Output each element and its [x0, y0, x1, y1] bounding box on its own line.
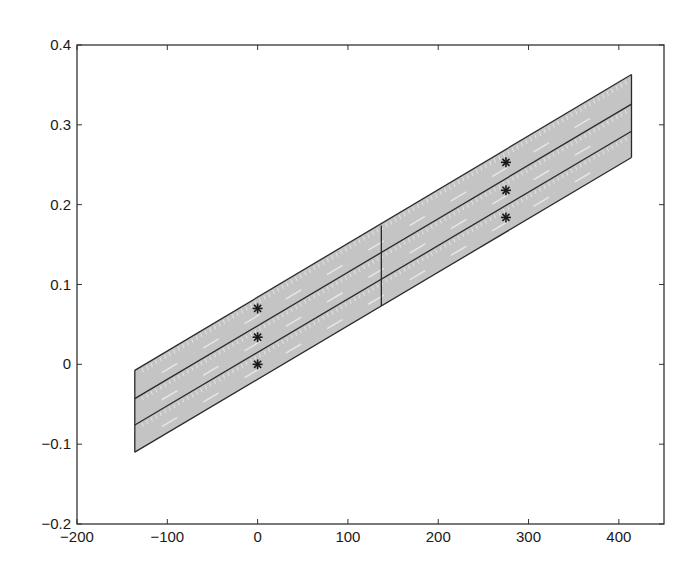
asterisk-marker	[253, 359, 263, 369]
asterisk-marker	[253, 303, 263, 313]
x-tick-label: −100	[150, 528, 184, 545]
y-tick-label: 0.2	[50, 196, 71, 213]
lower-boundary-line	[135, 158, 632, 453]
band-fill	[135, 75, 632, 453]
divider-2-line	[135, 131, 632, 425]
y-tick-label: −0.2	[41, 515, 71, 532]
x-tick-label: 100	[335, 528, 360, 545]
band-streak	[162, 164, 605, 426]
y-tick-label: 0.3	[50, 116, 71, 133]
y-tick-label: 0	[63, 355, 71, 372]
y-tick-label: −0.1	[41, 435, 71, 452]
y-tick-label: 0.4	[50, 36, 71, 53]
x-tick-label: 200	[426, 528, 451, 545]
upper-boundary-line	[135, 75, 632, 371]
band-area	[135, 75, 632, 453]
asterisk-marker	[501, 185, 511, 195]
band-streak	[162, 110, 605, 373]
asterisk-marker	[501, 212, 511, 222]
x-tick-label: 400	[606, 528, 631, 545]
x-tick-label: 300	[516, 528, 541, 545]
asterisk-marker	[253, 332, 263, 342]
asterisk-marker	[501, 157, 511, 167]
y-tick-label: 0.1	[50, 276, 71, 293]
chart: −200−1000100200300400 −0.2−0.100.10.20.3…	[0, 0, 699, 588]
divider-1-line	[135, 104, 632, 399]
x-tick-label: 0	[253, 528, 261, 545]
